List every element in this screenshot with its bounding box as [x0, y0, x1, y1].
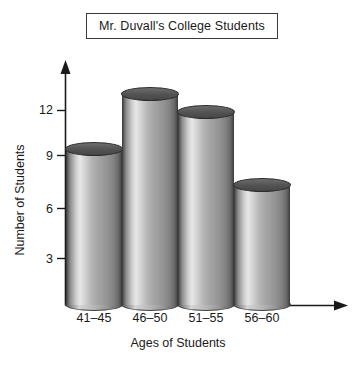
- bar-body: [178, 112, 234, 305]
- x-tick-label-41-45: 41–45: [66, 311, 122, 325]
- x-tick-label-46-50: 46–50: [122, 311, 178, 325]
- x-tick-label-56-60: 56–60: [234, 311, 290, 325]
- y-axis-title: Number of Students: [6, 100, 34, 300]
- bar-56-60: [234, 178, 290, 305]
- y-axis-title-text: Number of Students: [13, 144, 27, 255]
- bar-top-ellipse: [233, 178, 291, 192]
- chart-title-box: Mr. Duvall's College Students: [86, 13, 278, 39]
- x-axis-title: Ages of Students: [66, 336, 290, 350]
- chart-container: Mr. Duvall's College Students 12 9 6 3 N…: [0, 0, 362, 373]
- plot-area: [66, 60, 290, 305]
- bar-51-55: [178, 105, 234, 305]
- bar-41-45: [66, 142, 122, 305]
- x-axis-arrowhead: [334, 301, 348, 311]
- bar-body: [66, 149, 122, 305]
- y-tick-label-12: 12: [31, 103, 53, 117]
- x-tick-label-51-55: 51–55: [178, 311, 234, 325]
- bar-46-50: [122, 87, 178, 305]
- bar-body: [122, 94, 178, 305]
- y-tick-label-9: 9: [31, 149, 53, 163]
- y-tick-label-3: 3: [31, 252, 53, 266]
- chart-title: Mr. Duvall's College Students: [99, 19, 265, 33]
- bar-body: [234, 185, 290, 305]
- y-tick-label-6: 6: [31, 202, 53, 216]
- bar-top-ellipse: [65, 142, 123, 156]
